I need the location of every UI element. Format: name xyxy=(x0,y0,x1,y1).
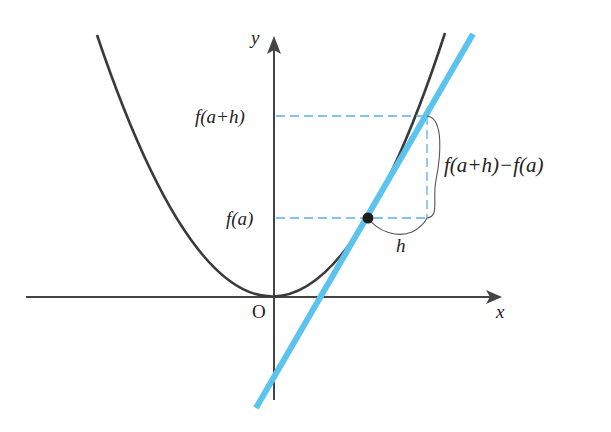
y-axis-label: y xyxy=(249,27,260,48)
parabola-curve xyxy=(97,33,445,297)
derivative-diagram: y x O f(a+h) f(a) f(a+h)−f(a) h xyxy=(0,0,611,432)
h-label: h xyxy=(396,235,406,256)
f-a-h-label: f(a+h) xyxy=(195,106,245,128)
f-a-label: f(a) xyxy=(226,208,253,230)
vertical-change-brace xyxy=(427,116,440,218)
point-a xyxy=(363,213,374,224)
dashed-guides xyxy=(276,116,427,218)
x-axis-label: x xyxy=(495,301,505,322)
difference-label: f(a+h)−f(a) xyxy=(444,153,543,177)
horizontal-change-brace xyxy=(368,218,427,234)
origin-label: O xyxy=(252,301,266,322)
